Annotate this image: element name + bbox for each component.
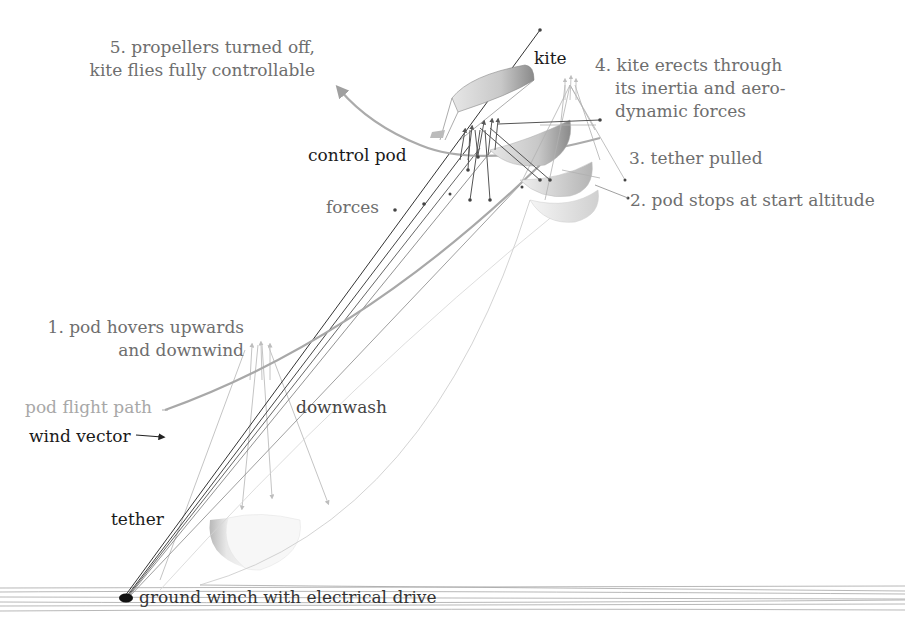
kite-launch-diagram: 5. propellers turned off, kite flies ful… [0, 0, 905, 636]
control-pod-label: control pod [308, 144, 407, 167]
downwash-label: downwash [296, 396, 387, 419]
forces-label: forces [326, 196, 379, 219]
kite-step3 [520, 162, 592, 197]
pod-flight-path-label: pod flight path [25, 396, 152, 419]
step5-line2: kite flies fully controllable [15, 59, 315, 82]
step1-line1: 1. pod hovers upwards [20, 316, 244, 339]
step2-leader [595, 185, 628, 198]
ground-winch [119, 594, 133, 603]
step4-line2: its inertia and aero- [595, 77, 785, 100]
step2-label: 2. pod stops at start altitude [630, 189, 875, 212]
step4-label: 4. kite erects through its inertia and a… [595, 54, 785, 123]
kite-step5 [430, 65, 534, 140]
tethers [125, 30, 560, 596]
step4-line3: dynamic forces [595, 100, 785, 123]
step4-line1: 4. kite erects through [595, 54, 785, 77]
wind-vector-label: wind vector [29, 425, 131, 448]
kite-step1 [209, 514, 300, 570]
ground-winch-label: ground winch with electrical drive [139, 586, 437, 609]
step5-label: 5. propellers turned off, kite flies ful… [15, 36, 315, 82]
step1-label: 1. pod hovers upwards and downwind [20, 316, 244, 362]
ground-surface [0, 585, 905, 611]
kite-step4 [490, 120, 571, 166]
step1-line2: and downwind [20, 339, 244, 362]
kite-label: kite [534, 47, 567, 70]
step5-line1: 5. propellers turned off, [15, 36, 315, 59]
step4-propeller-arrows [565, 77, 576, 100]
tether-label: tether [111, 508, 164, 531]
step3-label: 3. tether pulled [629, 147, 763, 170]
wind-vector-arrow [136, 435, 162, 437]
